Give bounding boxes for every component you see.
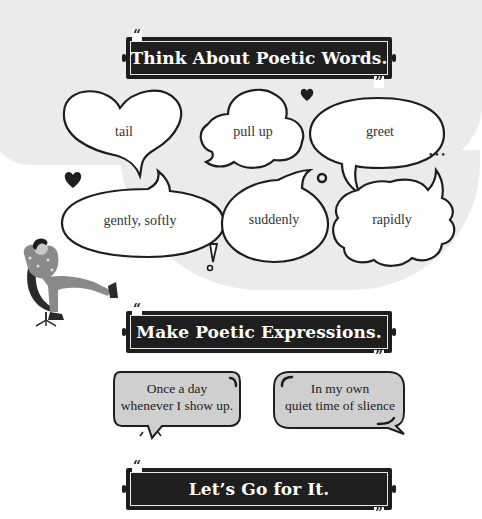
- exclamation-icon: [204, 242, 220, 272]
- word-greet: greet: [350, 124, 410, 140]
- quote-close-mark: ”: [374, 507, 384, 519]
- expression-line: In my own: [274, 380, 406, 397]
- person-relaxing-illustration: [18, 238, 123, 328]
- word-rapidly: rapidly: [362, 212, 422, 228]
- banner-nub-right: [392, 328, 396, 336]
- banner-nub-right: [392, 485, 396, 493]
- expression-line: quiet time of slience: [274, 397, 406, 414]
- section-title: Make Poetic Expressions.: [136, 322, 381, 342]
- banner-nub-right: [392, 54, 396, 62]
- section-banner-make: “ Make Poetic Expressions. ”: [126, 311, 392, 353]
- word-tail: tail: [94, 124, 154, 140]
- quote-close-mark: ”: [374, 350, 384, 362]
- expression-text-2: In my own quiet time of slience: [274, 380, 406, 414]
- expression-line: Once a day: [112, 380, 242, 397]
- section-title: Think About Poetic Words.: [130, 48, 387, 68]
- circle-icon: [316, 172, 328, 184]
- banner-nub-left: [122, 54, 126, 62]
- quote-open-mark: “: [132, 303, 142, 315]
- expression-text-1: Once a day whenever I show up.: [112, 380, 242, 414]
- section-title: Let’s Go for It.: [189, 479, 330, 499]
- expression-line: whenever I show up.: [112, 397, 242, 414]
- section-banner-go: “ Let’s Go for It. ”: [126, 468, 392, 510]
- banner-nub-left: [122, 485, 126, 493]
- ellipsis-icon: •••: [428, 150, 447, 160]
- heart-icon: [64, 171, 82, 189]
- word-suddenly: suddenly: [238, 212, 310, 228]
- heart-icon: [300, 88, 314, 102]
- banner-nub-left: [122, 328, 126, 336]
- quote-open-mark: “: [132, 460, 142, 472]
- quote-open-mark: “: [132, 29, 142, 41]
- section-banner-think: “ Think About Poetic Words. ”: [126, 37, 392, 79]
- quote-close-mark: ”: [374, 76, 384, 88]
- word-gently-softly: gently, softly: [90, 213, 190, 229]
- word-pull-up: pull up: [218, 124, 288, 140]
